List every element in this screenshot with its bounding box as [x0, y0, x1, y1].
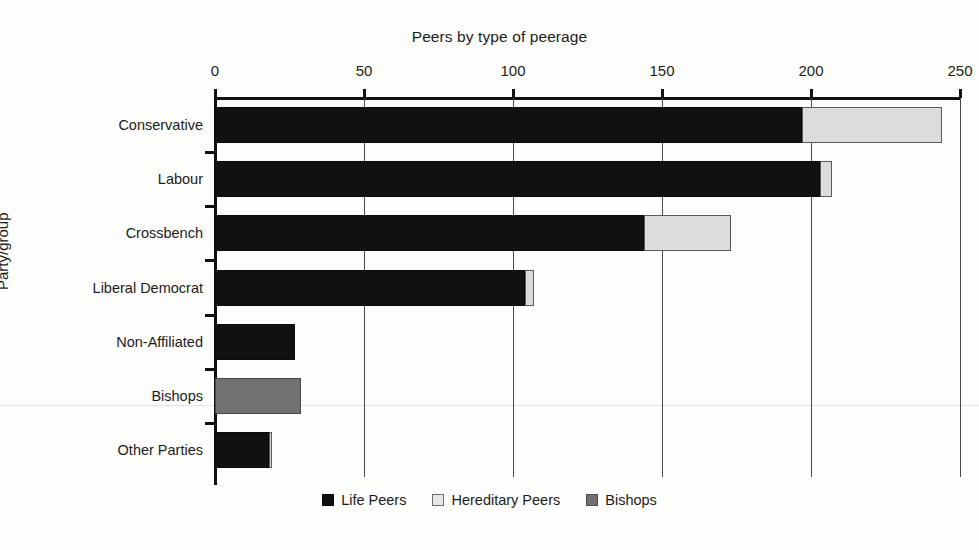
gridline-x-200 — [811, 98, 812, 477]
x-axis-tick-label-250: 250 — [947, 62, 972, 79]
category-label-labour: Labour — [8, 171, 203, 187]
category-label-non-affiliated: Non-Affiliated — [8, 334, 203, 350]
y-axis-tick-2 — [205, 205, 215, 208]
x-axis-tick-0 — [214, 89, 217, 98]
category-label-conservative: Conservative — [8, 117, 203, 133]
bishops-swatch — [586, 494, 598, 506]
x-axis-tick-150 — [661, 89, 664, 98]
category-label-group: ConservativeLabourCrossbenchLiberal Demo… — [0, 0, 203, 550]
category-label-other-parties: Other Parties — [8, 442, 203, 458]
category-label-liberal-democrat: Liberal Democrat — [8, 280, 203, 296]
gridline-x-150 — [662, 98, 663, 477]
x-axis-tick-label-100: 100 — [500, 62, 525, 79]
category-label-crossbench: Crossbench — [8, 225, 203, 241]
plot-area — [215, 98, 960, 477]
y-axis-tick-1 — [205, 151, 215, 154]
bar-segment — [802, 107, 942, 143]
bar-segment — [820, 161, 832, 197]
legend-item-label: Hereditary Peers — [451, 492, 560, 508]
legend-item-bishops[interactable]: Bishops — [586, 492, 657, 508]
legend-item-label: Bishops — [605, 492, 657, 508]
x-axis-tick-label-0: 0 — [211, 62, 219, 79]
x-axis-tick-label-50: 50 — [356, 62, 373, 79]
x-axis-tick-200 — [810, 89, 813, 98]
bar-segment — [525, 270, 534, 306]
y-axis-tick-3 — [205, 259, 215, 262]
bar-segment — [644, 215, 730, 251]
x-axis-tick-label-150: 150 — [649, 62, 674, 79]
bar-segment — [215, 270, 525, 306]
life-peers-swatch — [322, 494, 334, 506]
bar-segment — [215, 324, 295, 360]
gridline-x-250 — [960, 98, 961, 477]
legend-item-life-peers[interactable]: Life Peers — [322, 492, 406, 508]
x-axis-tick-250 — [959, 89, 962, 98]
y-axis-tick-4 — [205, 314, 215, 317]
y-axis-tick-6 — [205, 422, 215, 425]
bar-segment — [215, 161, 820, 197]
x-axis-tick-label-200: 200 — [798, 62, 823, 79]
bar-segment — [215, 215, 644, 251]
chart-legend: Life PeersHereditary PeersBishops — [0, 492, 979, 508]
bar-segment — [215, 107, 802, 143]
bar-segment — [215, 432, 269, 468]
x-axis-tick-100 — [512, 89, 515, 98]
category-label-bishops: Bishops — [8, 388, 203, 404]
legend-item-label: Life Peers — [341, 492, 406, 508]
chart-page: Peers by type of peerage Party/group Con… — [0, 0, 979, 550]
x-axis-tick-50 — [363, 89, 366, 98]
legend-item-hereditary-peers[interactable]: Hereditary Peers — [432, 492, 560, 508]
chart-title-text: Peers by type of peerage — [412, 28, 588, 46]
hereditary-peers-swatch — [432, 494, 444, 506]
y-axis-tick-5 — [205, 368, 215, 371]
bar-segment — [215, 378, 301, 414]
bar-segment — [269, 432, 272, 468]
